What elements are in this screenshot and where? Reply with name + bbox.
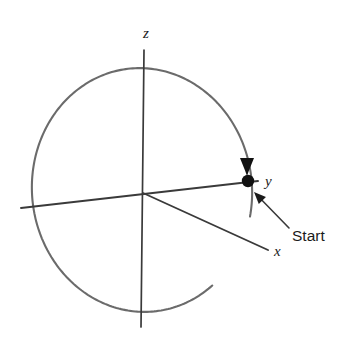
start-callout-line [260,198,289,228]
diagram-canvas: z y x Start [0,0,342,341]
z-axis-line [141,50,144,327]
start-callout-label: Start [292,227,325,244]
z-axis-label: z [142,25,149,41]
coordinate-system-diagram: z y x Start [0,0,342,341]
start-point-marker [242,175,254,187]
direction-arrowhead [240,158,254,176]
x-axis-label: x [273,243,281,259]
y-axis-label: y [263,173,272,189]
y-axis-line [21,181,258,208]
x-axis-line [143,193,268,250]
